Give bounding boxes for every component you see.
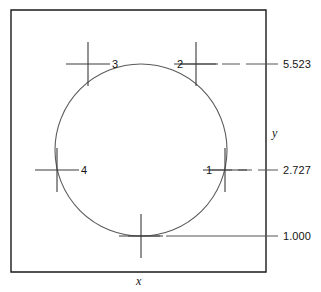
x-axis-label: x	[136, 274, 141, 289]
tick-label-5523: 5.523	[283, 58, 311, 70]
marker-crosshair-4	[35, 148, 79, 192]
y-axis-label: y	[272, 126, 277, 141]
tick-label-2727: 2.727	[283, 164, 311, 176]
point-label-1: 1	[206, 164, 212, 176]
plot-frame	[11, 10, 266, 272]
point-label-4: 4	[81, 164, 87, 176]
figure-container: 5.523 2.727 1.000 1 2 3 4 y x	[0, 0, 321, 292]
point-label-3: 3	[112, 58, 118, 70]
tick-label-1000: 1.000	[283, 230, 311, 242]
frame-rect	[11, 10, 266, 272]
contour-circle	[55, 64, 227, 236]
point-label-2: 2	[177, 58, 183, 70]
marker-crosshair-bottom	[119, 214, 163, 258]
figure-graphics	[0, 0, 321, 292]
marker-crosshair-3	[66, 42, 110, 86]
